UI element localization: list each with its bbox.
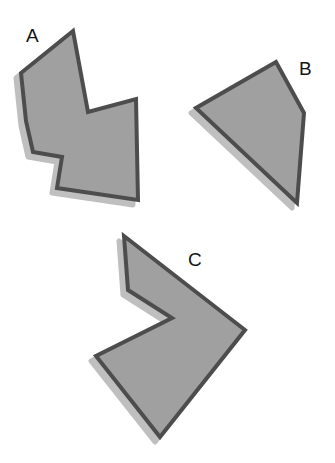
shape-c-polygon[interactable]	[96, 236, 245, 437]
shape-label-a: A	[26, 26, 39, 45]
polygon-figure	[0, 0, 335, 463]
shape-layer	[21, 31, 304, 437]
shape-label-c: C	[188, 250, 202, 269]
shape-label-b: B	[299, 59, 312, 78]
shape-a-polygon[interactable]	[21, 31, 138, 200]
figure-canvas: A B C	[0, 0, 335, 463]
